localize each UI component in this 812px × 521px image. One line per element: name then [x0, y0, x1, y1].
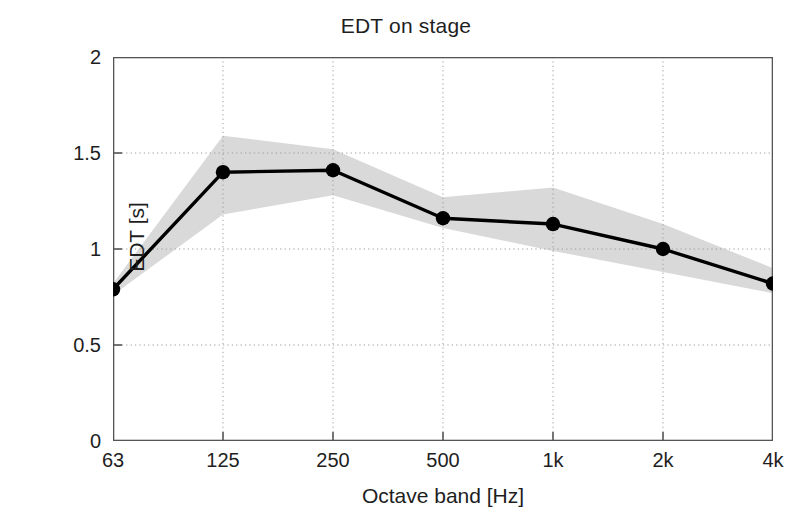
y-tick-label: 2 — [41, 46, 101, 69]
data-point — [436, 211, 450, 225]
plot-canvas — [113, 57, 773, 441]
y-tick-label: 1 — [41, 238, 101, 261]
chart-figure: EDT on stage 00.511.52 631252505001k2k4k… — [0, 0, 812, 521]
data-point — [656, 242, 670, 256]
y-tick-label: 1.5 — [41, 142, 101, 165]
ytick-marks — [113, 57, 122, 441]
chart-title: EDT on stage — [0, 14, 812, 38]
x-axis-label: Octave band [Hz] — [113, 484, 773, 508]
data-point — [216, 165, 230, 179]
plot-area: 00.511.52 631252505001k2k4k EDT [s] Octa… — [113, 57, 773, 441]
data-point — [546, 217, 560, 231]
x-tick-label: 2k — [623, 449, 703, 472]
x-tick-label: 125 — [183, 449, 263, 472]
x-tick-label: 1k — [513, 449, 593, 472]
x-tick-label: 250 — [293, 449, 373, 472]
data-point — [326, 163, 340, 177]
y-axis-label: EDT [s] — [125, 45, 149, 429]
x-tick-label: 63 — [73, 449, 153, 472]
x-tick-label: 4k — [733, 449, 812, 472]
xtick-marks — [113, 432, 773, 441]
y-tick-label: 0.5 — [41, 334, 101, 357]
x-tick-label: 500 — [403, 449, 483, 472]
